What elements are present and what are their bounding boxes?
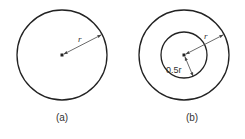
center-point-b [183,54,186,57]
inner-radius-arrow-b [185,57,193,76]
figure-b: r 0.5r (b) [139,10,229,123]
radius-arrow-a [64,35,101,54]
center-point-a [61,54,64,57]
caption-a: (a) [56,112,68,123]
outer-radius-label-b: r [204,31,208,41]
diagram-canvas: r (a) r 0.5r (b) [0,0,245,139]
figure-a: r (a) [17,10,107,123]
radius-label-a: r [78,34,82,44]
caption-b: (b) [186,112,198,123]
inner-radius-label-b: 0.5r [166,65,182,75]
